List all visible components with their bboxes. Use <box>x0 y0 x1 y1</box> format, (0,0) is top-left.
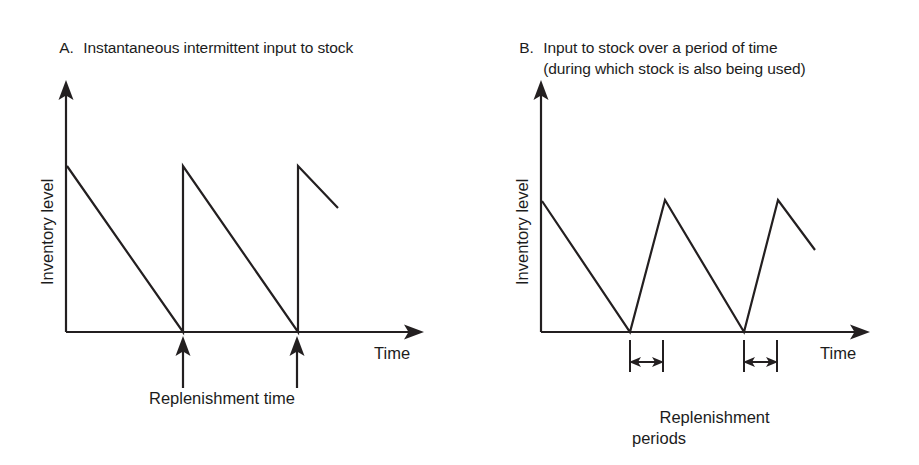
panel-b-replenishment-label-line-1: Replenishment <box>660 408 770 426</box>
panel-a-replenishment-arrow-2 <box>290 336 305 388</box>
panel-b: B.Input to stock over a period of time(d… <box>460 0 919 465</box>
figure-inventory-replenishment-diagram: A.Instantaneous intermittent input to st… <box>0 0 919 465</box>
panel-b-replenishment-label-line-2: periods <box>632 428 770 449</box>
panel-a-x-axis-label: Time <box>374 344 410 363</box>
panel-a-x-axis <box>66 325 424 340</box>
panel-a-y-axis <box>59 80 74 332</box>
panel-b-replenishment-label: Replenishmentperiods <box>632 386 770 465</box>
panel-a-inventory-curve <box>67 166 338 332</box>
panel-a-replenishment-arrow-1 <box>176 336 191 388</box>
panel-b-x-axis <box>541 325 870 340</box>
panel-b-y-axis-label: Inventory level <box>513 179 532 285</box>
panel-a: A.Instantaneous intermittent input to st… <box>0 0 460 465</box>
panel-b-x-axis-label: Time <box>820 344 856 363</box>
panel-b-inventory-curve <box>542 200 815 332</box>
panel-a-replenishment-label: Replenishment time <box>149 388 295 409</box>
panel-b-replenishment-period-1 <box>629 340 664 372</box>
panel-a-y-axis-label: Inventory level <box>38 179 57 285</box>
panel-b-replenishment-period-2 <box>743 340 778 372</box>
